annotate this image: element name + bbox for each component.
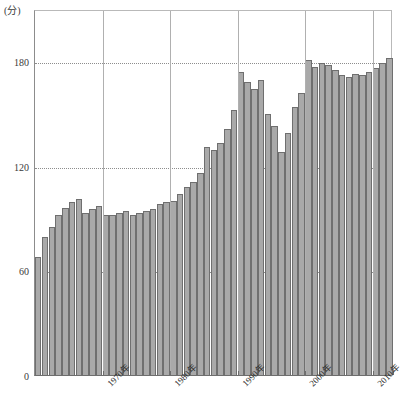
x-tick (76, 371, 77, 375)
bar (332, 70, 338, 375)
x-tick (69, 371, 70, 375)
bar (76, 199, 82, 375)
bar (136, 213, 142, 375)
x-tick (42, 371, 43, 375)
x-tick (305, 371, 306, 375)
x-tick (150, 371, 151, 375)
bar (271, 126, 277, 375)
bar (339, 75, 345, 375)
bar (42, 237, 48, 375)
bar (49, 227, 55, 375)
bar (298, 93, 304, 375)
bar (62, 208, 68, 375)
x-tick (271, 371, 272, 375)
bar (312, 67, 318, 375)
bar (157, 204, 163, 375)
x-tick (346, 371, 347, 375)
x-tick (55, 371, 56, 375)
bar (325, 65, 331, 375)
bar (231, 110, 237, 375)
x-tick (238, 371, 239, 375)
bar (285, 133, 291, 375)
y-axis-unit-label: (分) (4, 2, 21, 17)
x-tick (285, 371, 286, 375)
x-tick (49, 371, 50, 375)
x-tick (136, 371, 137, 375)
x-tick (339, 371, 340, 375)
x-tick (204, 371, 205, 375)
bar (224, 129, 230, 375)
bar (352, 74, 358, 376)
bar (204, 147, 210, 375)
bar (143, 211, 149, 375)
x-tick (62, 371, 63, 375)
bar-chart: (分) 060120180 1970年1980年1990年2000年2010年 (0, 0, 401, 419)
vertical-marker-1970 (103, 11, 104, 375)
bar (163, 202, 169, 375)
bar (346, 77, 352, 375)
bar (265, 114, 271, 375)
bar (130, 215, 136, 375)
x-tick (96, 371, 97, 375)
x-tick (82, 371, 83, 375)
plot-area (34, 10, 392, 376)
bar (35, 257, 41, 376)
vertical-marker-1980 (170, 11, 171, 375)
x-tick (163, 371, 164, 375)
x-tick (278, 371, 279, 375)
x-tick (292, 371, 293, 375)
bar (278, 152, 284, 375)
vertical-marker-1990 (238, 11, 239, 375)
x-tick (157, 371, 158, 375)
x-tick (143, 371, 144, 375)
y-tick-label-120: 120 (2, 161, 29, 172)
x-tick (298, 371, 299, 375)
y-tick-label-0: 0 (2, 371, 29, 382)
bar (386, 58, 392, 375)
bar (55, 215, 61, 375)
x-tick (35, 371, 36, 375)
x-tick (352, 371, 353, 375)
x-tick (170, 371, 171, 375)
y-tick-label-60: 60 (2, 266, 29, 277)
bar (116, 213, 122, 375)
bar (292, 107, 298, 375)
x-tick (103, 371, 104, 375)
bar (258, 80, 264, 375)
bar (217, 143, 223, 375)
x-tick (231, 371, 232, 375)
bar (251, 89, 257, 375)
gridline-180 (35, 63, 391, 64)
bar (109, 215, 115, 375)
x-tick (217, 371, 218, 375)
x-tick (224, 371, 225, 375)
bar (69, 202, 75, 375)
bar (96, 206, 102, 375)
y-tick-label-180: 180 (2, 57, 29, 68)
bar (244, 82, 250, 375)
bar (211, 150, 217, 375)
bar (82, 213, 88, 375)
bar (89, 209, 95, 375)
bar (366, 72, 372, 375)
x-tick (373, 371, 374, 375)
bar (359, 75, 365, 375)
bar (319, 63, 325, 375)
bar (123, 211, 129, 375)
bar (197, 173, 203, 375)
bar (177, 194, 183, 375)
x-tick (366, 371, 367, 375)
x-tick (211, 371, 212, 375)
x-tick (359, 371, 360, 375)
bar (190, 182, 196, 375)
bar (379, 63, 385, 375)
vertical-marker-2010 (373, 11, 374, 375)
vertical-marker-2000 (305, 11, 306, 375)
bar (150, 209, 156, 375)
x-tick (89, 371, 90, 375)
bar (184, 187, 190, 375)
